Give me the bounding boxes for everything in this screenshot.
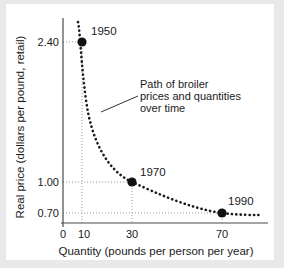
data-point-1990 <box>217 208 226 217</box>
xtick-label-30: 30 <box>126 228 138 240</box>
ytick-label-240: 2.40 <box>38 36 59 48</box>
broiler-path-curve <box>78 22 261 215</box>
xtick-label-0: 0 <box>60 228 66 240</box>
y-axis-title: Real price (dollars per pound, retail) <box>14 35 26 218</box>
ytick-label-100: 1.00 <box>38 176 59 188</box>
point-label-1970: 1970 <box>140 166 166 178</box>
chart-panel: 1950 1970 1990 2.40 1.00 0.70 0 10 30 70… <box>6 4 274 260</box>
x-axis-title: Quantity (pounds per person per year) <box>59 245 254 257</box>
annotation-text-group: Path of broiler prices and quantities ov… <box>140 78 241 114</box>
annotation-leader-line <box>101 96 138 112</box>
annotation-line-3: over time <box>140 102 185 114</box>
data-point-1970 <box>127 177 136 186</box>
xtick-label-70: 70 <box>216 228 228 240</box>
figure-root: 1950 1970 1990 2.40 1.00 0.70 0 10 30 70… <box>0 0 284 268</box>
data-point-1950 <box>77 37 86 46</box>
broiler-price-quantity-chart: 1950 1970 1990 2.40 1.00 0.70 0 10 30 70… <box>6 4 274 260</box>
gridlines-group <box>63 42 222 223</box>
point-label-1950: 1950 <box>91 25 117 37</box>
ytick-label-070: 0.70 <box>38 207 59 219</box>
xtick-label-10: 10 <box>78 228 90 240</box>
annotation-line-1: Path of broiler <box>140 78 209 90</box>
point-label-1990: 1990 <box>228 195 254 207</box>
annotation-line-2: prices and quantities <box>140 90 241 102</box>
